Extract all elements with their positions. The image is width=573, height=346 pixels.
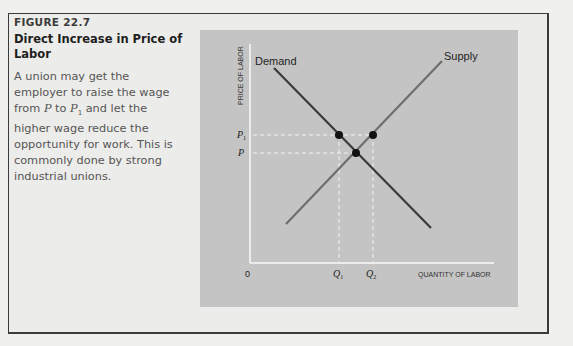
point-supply-p1 <box>369 131 377 139</box>
supply-label: Supply <box>444 50 478 62</box>
tick-p: P <box>237 147 244 158</box>
tick-q1: Q1 <box>333 268 343 280</box>
origin-label: 0 <box>245 269 250 279</box>
x-axis-label: QUANTITY OF LABOR <box>418 271 491 279</box>
tick-p1: P1 <box>236 129 246 141</box>
supply-curve <box>286 61 442 224</box>
y-axis-label: PRICE OF LABOR <box>237 46 244 105</box>
demand-curve <box>274 68 431 228</box>
chart: Demand Supply PRICE OF LABOR P1 P 0 Q1 Q… <box>0 0 573 346</box>
point-equilibrium <box>352 149 360 157</box>
tick-q2: Q2 <box>366 268 376 280</box>
demand-label: Demand <box>255 55 297 67</box>
point-demand-p1 <box>335 131 343 139</box>
